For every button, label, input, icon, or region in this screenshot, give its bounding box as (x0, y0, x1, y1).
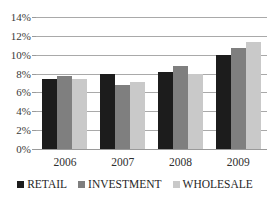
bar-group-2008 (152, 17, 210, 149)
legend-swatch-icon (78, 181, 85, 188)
bar-retail-2009[interactable] (216, 55, 231, 149)
bar-group-2006 (36, 17, 94, 149)
x-axis-label-2009: 2009 (209, 152, 267, 172)
bar-retail-2006[interactable] (42, 79, 57, 149)
y-tick-label: 12% (11, 30, 31, 42)
x-axis-label-2006: 2006 (36, 152, 94, 172)
bar-wholesale-2007[interactable] (130, 82, 145, 149)
y-tick-label: 8% (16, 68, 31, 80)
bar-retail-2008[interactable] (158, 72, 173, 149)
y-tick-label: 0% (16, 143, 31, 155)
legend-item-investment[interactable]: INVESTMENT (78, 178, 161, 190)
y-axis: 0%2%4%6%8%10%12%14% (0, 0, 36, 166)
gridline-0% (36, 149, 267, 150)
bar-group-2009 (209, 17, 267, 149)
bar-wholesale-2009[interactable] (246, 42, 261, 149)
y-tick-label: 6% (16, 86, 31, 98)
x-axis: 2006200720082009 (36, 152, 267, 172)
bar-investment-2006[interactable] (57, 76, 72, 149)
bar-investment-2008[interactable] (173, 66, 188, 149)
chart-legend: RETAILINVESTMENTWHOLESALE (0, 178, 270, 190)
bar-investment-2009[interactable] (231, 48, 246, 149)
legend-label: INVESTMENT (88, 178, 161, 190)
legend-label: WHOLESALE (183, 178, 253, 190)
legend-label: RETAIL (27, 178, 67, 190)
y-tick-label: 2% (16, 124, 31, 136)
x-axis-label-2008: 2008 (152, 152, 210, 172)
y-tick-label: 14% (11, 11, 31, 23)
legend-swatch-icon (173, 181, 180, 188)
y-tick-label: 10% (11, 49, 31, 61)
legend-item-wholesale[interactable]: WHOLESALE (173, 178, 253, 190)
legend-item-retail[interactable]: RETAIL (17, 178, 67, 190)
bar-wholesale-2006[interactable] (72, 79, 87, 149)
x-axis-label-2007: 2007 (94, 152, 152, 172)
bar-wholesale-2008[interactable] (188, 74, 203, 149)
bar-retail-2007[interactable] (100, 74, 115, 149)
bar-groups (36, 17, 267, 149)
bar-chart: 0%2%4%6%8%10%12%14% 2006200720082009 RET… (0, 0, 270, 200)
bar-investment-2007[interactable] (115, 85, 130, 149)
legend-swatch-icon (17, 181, 24, 188)
bar-group-2007 (94, 17, 152, 149)
y-tick-label: 4% (16, 105, 31, 117)
plot-area (36, 17, 267, 149)
